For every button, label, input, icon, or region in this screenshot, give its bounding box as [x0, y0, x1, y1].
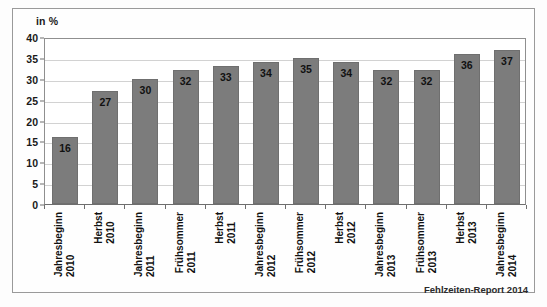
x-axis-tick-mark	[406, 205, 407, 209]
plot-area: 162730323334353432323637	[44, 38, 526, 205]
y-axis-tick-label: 20	[26, 116, 38, 128]
x-axis-tick-mark	[526, 205, 527, 209]
x-axis-label-slot: Herbst2013	[446, 212, 486, 292]
bar-value-label: 33	[214, 72, 238, 83]
x-axis-tick-mark	[124, 205, 125, 209]
x-axis-label-slot: Jahresbeginn2010	[44, 212, 84, 292]
x-axis-tick-mark	[486, 205, 487, 209]
x-axis-tick-label: Jahresbeginn2013	[374, 212, 397, 277]
bar[interactable]: 30	[132, 79, 158, 204]
y-axis-tick-label: 15	[26, 136, 38, 148]
bar[interactable]: 37	[494, 50, 520, 204]
x-axis-tick-label: Frühsommer2013	[414, 212, 437, 273]
y-axis-unit-label: in %	[36, 15, 58, 27]
bar-value-label: 32	[374, 76, 398, 87]
x-axis-tick-mark	[84, 205, 85, 209]
bar[interactable]: 27	[92, 91, 118, 204]
y-axis-tick-label: 25	[26, 95, 38, 107]
bar-slot: 34	[326, 39, 366, 204]
bar-slot: 32	[366, 39, 406, 204]
bar-slot: 32	[407, 39, 447, 204]
x-axis-label-slot: Frühsommer2012	[285, 212, 325, 292]
x-axis-label-slot: Frühsommer2013	[406, 212, 446, 292]
x-axis-label-slot: Jahresbeginn2014	[486, 212, 526, 292]
x-axis-tick-label: Herbst2011	[213, 212, 236, 244]
x-axis-tick-mark	[325, 205, 326, 209]
bar-slot: 16	[45, 39, 85, 204]
x-axis-label-slot: Herbst2011	[205, 212, 245, 292]
x-axis-label-slot: Jahresbeginn2012	[245, 212, 285, 292]
x-axis-label-slot: Herbst2010	[84, 212, 124, 292]
x-axis-label-slot: Herbst2012	[325, 212, 365, 292]
x-axis-tick-mark	[446, 205, 447, 209]
bar-slot: 33	[206, 39, 246, 204]
bar[interactable]: 35	[293, 58, 319, 204]
y-axis-tick-label: 35	[26, 53, 38, 65]
x-axis-tick-label: Jahresbeginn2010	[53, 212, 76, 277]
x-axis-tick-mark	[365, 205, 366, 209]
bar-value-label: 36	[455, 60, 479, 71]
y-axis-tick-label: 0	[32, 199, 38, 211]
bar[interactable]: 16	[52, 137, 78, 204]
y-axis-tick-label: 10	[26, 157, 38, 169]
x-axis-tick-label: Jahresbeginn2011	[133, 212, 156, 277]
bar-slot: 32	[166, 39, 206, 204]
y-axis-tick-label: 5	[32, 178, 38, 190]
x-axis-tick-label: Herbst2013	[454, 212, 477, 244]
bar[interactable]: 32	[173, 70, 199, 204]
x-axis-tick-mark	[205, 205, 206, 209]
bar-value-label: 34	[334, 68, 358, 79]
chart-figure: in % 4035302520151050 162730323334353432…	[0, 0, 547, 307]
x-axis-tick-mark	[245, 205, 246, 209]
x-axis-label-slot: Frühsommer2011	[165, 212, 205, 292]
bar-value-label: 16	[53, 143, 77, 154]
y-axis: 4035302520151050	[0, 38, 44, 205]
x-axis-tick-label: Jahresbeginn2014	[494, 212, 517, 277]
bar-value-label: 35	[294, 64, 318, 75]
bar-value-label: 27	[93, 97, 117, 108]
x-axis: Jahresbeginn2010Herbst2010Jahresbeginn20…	[44, 205, 526, 293]
bar-value-label: 34	[254, 68, 278, 79]
bar-value-label: 32	[174, 76, 198, 87]
bar-value-label: 32	[415, 76, 439, 87]
x-axis-tick-mark	[44, 205, 45, 209]
bar-value-label: 37	[495, 56, 519, 67]
bar-series: 162730323334353432323637	[45, 39, 525, 204]
bar[interactable]: 32	[414, 70, 440, 204]
x-axis-tick-label: Herbst2010	[93, 212, 116, 244]
bar-slot: 35	[286, 39, 326, 204]
bar-slot: 27	[85, 39, 125, 204]
source-note: Fehlzeiten-Report 2014	[424, 284, 528, 295]
y-axis-tick-label: 40	[26, 32, 38, 44]
bar-slot: 36	[447, 39, 487, 204]
y-axis-tick-label: 30	[26, 74, 38, 86]
bar[interactable]: 32	[373, 70, 399, 204]
x-axis-tick-mark	[285, 205, 286, 209]
x-axis-tick-label: Frühsommer2011	[173, 212, 196, 273]
x-axis-label-slot: Jahresbeginn2011	[124, 212, 164, 292]
bar[interactable]: 34	[333, 62, 359, 204]
x-axis-tick-label: Herbst2012	[334, 212, 357, 244]
x-axis-tick-label: Frühsommer2012	[294, 212, 317, 273]
bar-slot: 37	[487, 39, 527, 204]
bar-slot: 30	[125, 39, 165, 204]
x-axis-label-slot: Jahresbeginn2013	[365, 212, 405, 292]
x-axis-tick-mark	[165, 205, 166, 209]
bar[interactable]: 33	[213, 66, 239, 204]
x-axis-tick-label: Jahresbeginn2012	[253, 212, 276, 277]
bar[interactable]: 34	[253, 62, 279, 204]
bar-value-label: 30	[133, 85, 157, 96]
bar[interactable]: 36	[454, 54, 480, 204]
bar-slot: 34	[246, 39, 286, 204]
